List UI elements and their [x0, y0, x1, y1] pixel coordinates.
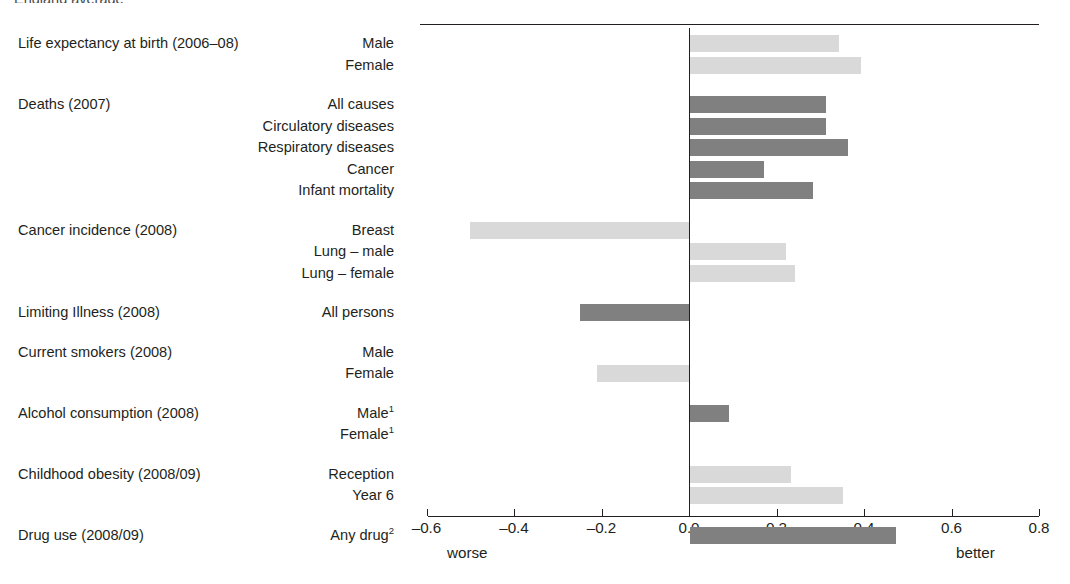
row-label: Male: [362, 345, 394, 360]
x-axis-tick: [952, 509, 953, 516]
x-axis-tick: [602, 509, 603, 516]
group-title: Alcohol consumption (2008): [18, 406, 199, 421]
bar: [690, 466, 791, 483]
x-axis-tick: [864, 509, 865, 516]
axis-note-better: better: [956, 545, 995, 560]
row-label: Year 6: [352, 488, 394, 503]
row-label: All persons: [322, 305, 394, 320]
top-rule: [420, 24, 1039, 25]
x-axis-tick: [777, 509, 778, 516]
row-label: Female: [345, 58, 394, 73]
row-label: Reception: [328, 467, 394, 482]
bar: [690, 118, 826, 135]
chart-root: England average Life expectancy at birth…: [0, 0, 1070, 584]
row-label: All causes: [327, 97, 394, 112]
row-label: Cancer: [347, 162, 394, 177]
group-title: Life expectancy at birth (2006–08): [18, 36, 239, 51]
row-label: Female1: [340, 427, 394, 442]
footnote-marker: 1: [389, 424, 394, 435]
bar: [690, 265, 795, 282]
bar: [690, 182, 813, 199]
row-label: Male: [362, 36, 394, 51]
x-axis-tick-label: 0.8: [1028, 520, 1049, 535]
row-label: Infant mortality: [298, 183, 394, 198]
group-title: Limiting Illness (2008): [18, 305, 160, 320]
axis-note-worse: worse: [447, 545, 488, 560]
group-title: Childhood obesity (2008/09): [18, 467, 201, 482]
row-label: Any drug2: [330, 528, 394, 543]
plot-area: worse better –0.6–0.4–0.20.00.20.40.60.8: [420, 0, 1070, 584]
bar: [690, 139, 848, 156]
x-axis-tick-label: 0.6: [941, 520, 962, 535]
row-label: Lung – male: [314, 244, 394, 259]
x-axis-tick: [514, 509, 515, 516]
group-title: Current smokers (2008): [18, 345, 172, 360]
x-axis-tick-label: –0.2: [587, 520, 617, 535]
row-label: Female: [345, 366, 394, 381]
row-label: Respiratory diseases: [258, 140, 394, 155]
x-axis-tick: [689, 509, 690, 516]
bar: [580, 304, 689, 321]
bar: [690, 405, 729, 422]
x-axis-tick: [427, 509, 428, 516]
bar: [597, 365, 689, 382]
bar: [470, 222, 689, 239]
row-label: Male1: [357, 406, 394, 421]
row-label: Circulatory diseases: [263, 119, 394, 134]
group-title: Cancer incidence (2008): [18, 223, 177, 238]
x-axis-tick: [1039, 509, 1040, 516]
footnote-marker: 1: [389, 403, 394, 414]
group-title: Deaths (2007): [18, 97, 110, 112]
bar: [690, 57, 861, 74]
x-axis-tick-label: –0.4: [499, 520, 529, 535]
row-labels-column: Life expectancy at birth (2006–08)MaleFe…: [0, 0, 412, 584]
bar: [690, 243, 786, 260]
bar: [690, 96, 826, 113]
bar: [690, 35, 839, 52]
row-label: Lung – female: [302, 266, 395, 281]
bar: [690, 161, 764, 178]
bar: [690, 487, 843, 504]
x-axis-line: [428, 516, 1039, 517]
row-label: Breast: [352, 223, 394, 238]
footnote-marker: 2: [389, 525, 394, 536]
x-axis-tick-label: –0.6: [412, 520, 442, 535]
bar: [690, 527, 896, 544]
group-title: Drug use (2008/09): [18, 528, 144, 543]
